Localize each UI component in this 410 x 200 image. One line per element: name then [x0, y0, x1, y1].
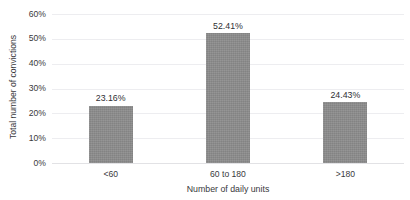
bar-slot: 23.16%	[89, 14, 133, 163]
plot-area: 23.16%52.41%24.43%	[52, 14, 404, 163]
bar-chart: Total number of convictions 0%10%20%30%4…	[0, 0, 410, 200]
bar[interactable]	[206, 33, 250, 163]
chart-title	[0, 0, 410, 3]
x-axis-title: Number of daily units	[52, 184, 404, 194]
y-axis-tick-label: 20%	[14, 109, 46, 118]
y-axis-tick-label: 50%	[14, 34, 46, 43]
x-axis-tick-label: <60	[52, 169, 169, 179]
y-axis-tick-label: 30%	[14, 84, 46, 93]
y-axis-tick-label: 40%	[14, 59, 46, 68]
bar[interactable]	[323, 102, 367, 163]
y-axis-tick-label: 10%	[14, 134, 46, 143]
bar-slot: 52.41%	[206, 14, 250, 163]
gridline-0	[52, 163, 404, 164]
x-axis-tick-labels: <6060 to 180>180	[52, 169, 404, 183]
bar-slot: 24.43%	[323, 14, 367, 163]
bar-series: 23.16%52.41%24.43%	[52, 14, 404, 163]
bar-value-label: 23.16%	[67, 93, 155, 103]
x-axis-tick-label: 60 to 180	[169, 169, 286, 179]
x-axis-tick-label: >180	[287, 169, 404, 179]
y-axis-tick-labels: 0%10%20%30%40%50%60%	[14, 0, 46, 200]
bar-value-label: 24.43%	[301, 90, 389, 100]
bar-value-label: 52.41%	[184, 21, 272, 31]
bar[interactable]	[89, 106, 133, 164]
y-axis-tick-label: 0%	[14, 159, 46, 168]
y-axis-tick-label: 60%	[14, 10, 46, 19]
